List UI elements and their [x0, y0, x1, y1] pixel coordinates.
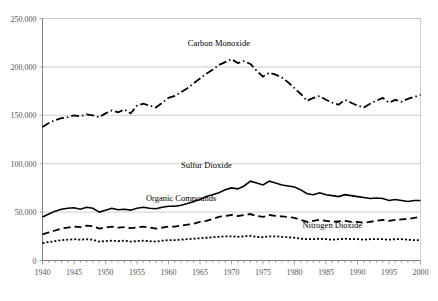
x-axis-group: 1940194519501955196019651970197519801985… — [35, 261, 429, 277]
y-axis-tick-label: 0 — [33, 257, 37, 266]
series-line-sulfur-dioxide — [43, 181, 421, 217]
x-axis-tick-label: 1955 — [129, 268, 145, 277]
series-label-sulfur-dioxide: Sulfur Dioxide — [181, 160, 232, 170]
x-axis-tick-label: 1990 — [350, 268, 366, 277]
series-line-carbon-monoxide — [43, 59, 421, 127]
x-axis-tick-label: 1945 — [66, 268, 82, 277]
x-axis-tick-label: 2000 — [413, 268, 429, 277]
x-axis-tick-label: 1980 — [287, 268, 303, 277]
x-axis-tick-label: 1965 — [192, 268, 208, 277]
x-axis-tick-label: 1975 — [255, 268, 271, 277]
y-axis-tick-label: 200,000 — [11, 63, 37, 72]
series-line-organic-compounds — [43, 214, 421, 234]
x-axis-tick-label: 1940 — [35, 268, 51, 277]
x-axis-tick-label: 1985 — [318, 268, 334, 277]
series-label-carbon-monoxide: Carbon Monoxide — [188, 38, 250, 48]
x-axis-tick-label: 1970 — [224, 268, 240, 277]
plot-area-border — [43, 19, 421, 261]
y-axis-tick-label: 100,000 — [11, 160, 37, 169]
series-annotations-group: Carbon MonoxideSulfur DioxideOrganic Com… — [146, 38, 363, 230]
series-label-organic-compounds: Organic Compounds — [146, 193, 216, 203]
series-label-nitrogen-dioxide: Nitrogen Dioxide — [302, 220, 362, 230]
y-axis-group: 050,000100,000150,000200,000250,000 — [11, 15, 43, 266]
y-axis-tick-label: 150,000 — [11, 111, 37, 120]
series-line-nitrogen-dioxide — [43, 236, 421, 243]
chart-canvas: 050,000100,000150,000200,000250,000 1940… — [0, 0, 438, 301]
emissions-line-chart: 050,000100,000150,000200,000250,000 1940… — [0, 0, 438, 301]
y-axis-tick-label: 50,000 — [15, 208, 37, 217]
plot-border-group — [43, 19, 421, 261]
x-axis-tick-label: 1960 — [161, 268, 177, 277]
x-axis-tick-label: 1995 — [381, 268, 397, 277]
x-axis-tick-label: 1950 — [98, 268, 114, 277]
series-lines-group — [43, 59, 421, 243]
y-axis-tick-label: 250,000 — [11, 15, 37, 24]
